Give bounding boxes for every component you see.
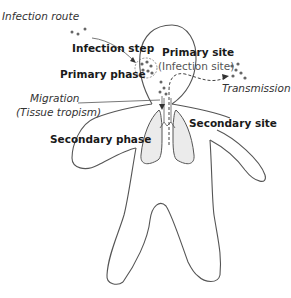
label-tissue-tropism: (Tissue tropism) [16,106,101,118]
infection-diagram: Infection route Infection step Primary p… [0,0,291,298]
label-secondary-phase: Secondary phase [50,133,151,145]
label-secondary-site: Secondary site [189,117,277,129]
label-infection-route: Infection route [2,10,79,22]
migration-particles [159,81,168,96]
label-infection-site: (Infection site) [158,60,234,72]
label-primary-phase: Primary phase [60,68,146,80]
lungs [141,98,194,164]
arrowhead-icon [222,74,229,80]
label-infection-step: Infection step [72,42,155,54]
label-migration: Migration [30,92,80,104]
label-primary-site: Primary site [162,46,234,58]
migration-line [78,100,160,103]
label-transmission: Transmission [222,82,291,94]
infection-route-particles [71,28,87,36]
